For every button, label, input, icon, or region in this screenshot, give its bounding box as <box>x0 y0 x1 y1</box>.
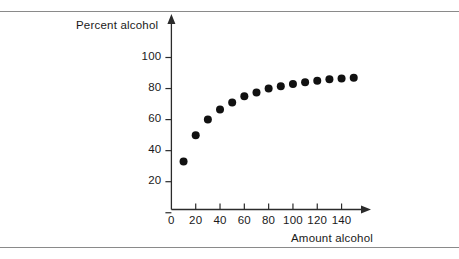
data-point-marker <box>325 75 333 83</box>
data-point-marker <box>265 85 273 93</box>
x-axis-title: Amount alcohol <box>291 232 373 244</box>
data-point-marker <box>350 74 358 82</box>
data-point-marker <box>277 82 285 90</box>
data-point-marker <box>252 88 260 96</box>
data-point-marker <box>228 99 236 107</box>
data-point-marker <box>289 80 297 88</box>
y-tick-label: 80 <box>131 81 161 93</box>
x-tick-label: 140 <box>329 214 355 226</box>
data-point-marker <box>192 131 200 139</box>
x-tick-label: 120 <box>304 214 330 226</box>
y-tick-label: 20 <box>131 174 161 186</box>
x-tick-label: 80 <box>256 214 282 226</box>
data-point-marker <box>313 77 321 85</box>
axes-group <box>167 14 371 214</box>
data-point-marker <box>216 106 224 114</box>
x-tick-label: 60 <box>231 214 257 226</box>
x-tick-label: 20 <box>183 214 209 226</box>
data-point-marker <box>301 78 309 86</box>
y-tick-label: 40 <box>131 143 161 155</box>
x-tick-label: 0 <box>158 214 184 226</box>
x-axis-arrowhead <box>361 206 371 214</box>
scatter-plot: Percent alcohol Amount alcohol 204060801… <box>0 0 459 259</box>
data-point-marker <box>204 116 212 124</box>
y-axis-title: Percent alcohol <box>76 19 158 31</box>
data-markers-group <box>180 74 358 166</box>
data-point-marker <box>240 92 248 100</box>
data-point-marker <box>180 158 188 166</box>
figure-container: Percent alcohol Amount alcohol 204060801… <box>0 0 459 259</box>
y-tick-label: 100 <box>131 50 161 62</box>
y-axis-arrowhead <box>167 14 175 24</box>
data-point-marker <box>338 74 346 82</box>
y-tick-label: 60 <box>131 112 161 124</box>
x-tick-label: 40 <box>207 214 233 226</box>
x-tick-label: 100 <box>280 214 306 226</box>
